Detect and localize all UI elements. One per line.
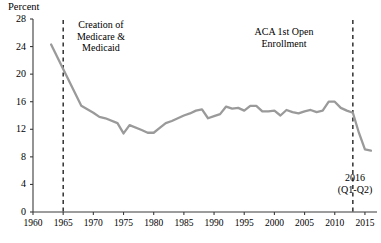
annotation-medicare-line3: Medicaid	[58, 42, 144, 54]
x-tick-label: 1990	[197, 218, 231, 228]
x-tick-label: 2015	[348, 218, 381, 228]
y-tick-label: 28	[4, 14, 26, 24]
x-tick-label: 1985	[167, 218, 201, 228]
annotation-endpoint-2016: 2016 (Q1-Q2)	[330, 172, 380, 195]
x-tick-label: 1965	[46, 218, 80, 228]
x-tick-label: 1960	[16, 218, 50, 228]
annotation-2016-line1: 2016	[330, 172, 380, 184]
x-tick-label: 2005	[288, 218, 322, 228]
y-tick-label: 4	[4, 179, 26, 189]
annotation-aca: ACA 1st Open Enrollment	[238, 26, 330, 49]
annotation-medicare: Creation of Medicare & Medicaid	[58, 19, 144, 54]
annotation-medicare-line1: Creation of	[58, 19, 144, 31]
x-tick-label: 1975	[107, 218, 141, 228]
x-tick-label: 2010	[318, 218, 352, 228]
annotation-aca-line1: ACA 1st Open	[238, 26, 330, 38]
annotation-aca-line2: Enrollment	[238, 38, 330, 50]
y-tick-label: 24	[4, 42, 26, 52]
data-series-line	[51, 45, 371, 151]
x-tick-label: 1970	[76, 218, 110, 228]
y-tick-label: 8	[4, 152, 26, 162]
y-tick-label: 12	[4, 124, 26, 134]
x-tick-label: 1995	[227, 218, 261, 228]
annotation-2016-line2: (Q1-Q2)	[330, 184, 380, 196]
y-tick-label: 20	[4, 69, 26, 79]
y-tick-label: 0	[4, 207, 26, 217]
x-tick-label: 2000	[257, 218, 291, 228]
y-axis-title: Percent	[8, 1, 40, 13]
uninsured-rate-chart: Percent 0481216202428 196019651970197519…	[0, 0, 381, 243]
y-tick-label: 16	[4, 97, 26, 107]
annotation-medicare-line2: Medicare &	[58, 31, 144, 43]
x-tick-label: 1980	[137, 218, 171, 228]
